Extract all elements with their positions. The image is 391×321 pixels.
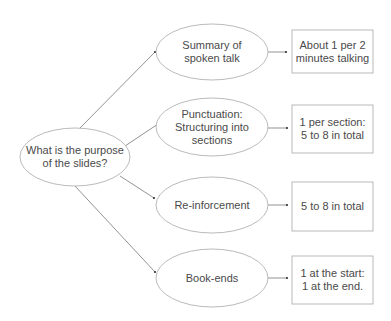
detail-text-summary: About 1 per 2 minutes talking [292, 30, 373, 73]
root-label: What is the purpose of the slides? [20, 128, 130, 186]
connector-root-bookends [75, 186, 155, 272]
branch-label-punctuation: Punctuation: Structuring into sections [156, 98, 268, 156]
branch-label-bookends: Book-ends [156, 249, 268, 307]
branch-label-reinforcement: Re-inforcement [156, 177, 268, 233]
branch-label-summary: Summary of spoken talk [156, 24, 268, 80]
detail-text-bookends: 1 at the start: 1 at the end. [292, 256, 373, 304]
detail-text-reinforcement: 5 to 8 in total [292, 182, 373, 231]
detail-text-punctuation: 1 per section: 5 to 8 in total [292, 105, 373, 153]
connector-root-summary [80, 52, 155, 128]
